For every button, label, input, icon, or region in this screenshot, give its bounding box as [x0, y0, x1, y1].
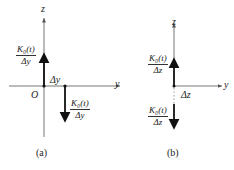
y-axis-label-a: y: [115, 79, 119, 89]
caption-b: (b): [167, 147, 179, 158]
upper-denominator-a: Δy: [21, 56, 30, 66]
origin-dot-b: [173, 85, 176, 88]
panel-a: [9, 18, 120, 137]
offset-label-a: Δy: [50, 75, 60, 85]
panel-b: [173, 23, 223, 128]
lower-numerator-a: K₀(t): [70, 99, 90, 110]
lower-numerator-b: K₀(t): [148, 106, 168, 117]
offset-dot-a: [63, 84, 66, 87]
origin-label-a: O: [31, 90, 38, 100]
upper-numerator-b: K₀(t): [148, 54, 168, 65]
z-axis-label-a: z: [41, 4, 45, 14]
upper-fraction-a: K₀(t) Δy: [16, 45, 36, 66]
lower-fraction-a: K₀(t) Δy: [70, 99, 90, 120]
z-axis-label-b: z: [172, 17, 176, 27]
y-axis-label-b: y: [224, 80, 228, 90]
offset-label-b: Δz: [181, 90, 191, 100]
origin-dot-a: [42, 84, 45, 87]
lower-denominator-b: Δz: [153, 117, 162, 127]
lower-fraction-b: K₀(t) Δz: [148, 106, 168, 127]
upper-fraction-b: K₀(t) Δz: [148, 54, 168, 75]
caption-a: (a): [36, 147, 47, 158]
lower-denominator-a: Δy: [75, 110, 84, 120]
upper-denominator-b: Δz: [153, 65, 162, 75]
upper-numerator-a: K₀(t): [16, 45, 36, 56]
